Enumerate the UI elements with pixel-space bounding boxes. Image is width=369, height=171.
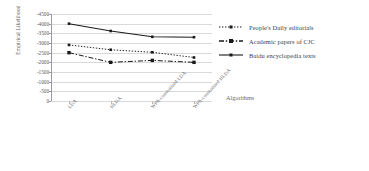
y-axis-tick-label: -500	[39, 88, 49, 94]
y-axis-tickmark	[49, 14, 51, 15]
y-axis-tickmark	[49, 53, 51, 54]
data-point-marker	[109, 30, 112, 33]
legend-item: Academic papers of CJC	[218, 34, 366, 48]
legend-key-swatch	[218, 50, 244, 60]
data-point-marker	[67, 51, 70, 54]
legend-item: People's Daily editorials	[218, 20, 366, 34]
y-axis-tickmark	[49, 33, 51, 34]
legend-label: People's Daily editorials	[249, 24, 314, 31]
data-point-marker	[68, 22, 71, 25]
series-lines	[51, 14, 212, 101]
data-point-marker	[68, 44, 71, 47]
data-point-marker	[151, 36, 154, 39]
y-axis-tick-label: -1500	[37, 69, 49, 75]
y-axis-tick-label: -2500	[37, 50, 49, 56]
data-point-marker	[151, 59, 154, 62]
x-axis-title: Algorithms	[226, 94, 254, 101]
legend-key-swatch	[218, 22, 244, 32]
data-point-marker	[193, 56, 196, 59]
y-axis-tickmark	[49, 62, 51, 63]
legend-item: Baidu encyclopedia texts	[218, 48, 366, 62]
y-axis-tick-label: -4500	[37, 11, 49, 17]
data-point-marker	[192, 61, 195, 64]
y-axis-tickmark	[49, 24, 51, 25]
series-line	[69, 24, 194, 38]
data-point-marker	[193, 36, 196, 39]
y-axis-tickmark	[49, 91, 51, 92]
y-axis-tick-label: -3500	[37, 30, 49, 36]
y-axis-tick-label: -4000	[37, 21, 49, 27]
chart-legend: People's Daily editorialsAcademic papers…	[218, 20, 366, 62]
data-point-marker	[151, 51, 154, 54]
y-axis-tick-labels: -4500-4000-3500-3000-2500-2000-1500-1000…	[26, 8, 49, 108]
data-point-marker	[109, 48, 112, 51]
y-axis-tickmark	[49, 72, 51, 73]
y-axis-tickmark	[49, 82, 51, 83]
plot-area	[51, 14, 212, 101]
empirical-likelihood-line-chart: Empirical Likelihood -4500-4000-3500-300…	[0, 0, 369, 171]
y-axis-tick-label: -1000	[37, 79, 49, 85]
legend-label: Academic papers of CJC	[249, 38, 315, 45]
y-axis-tick-label: -2000	[37, 59, 49, 65]
y-axis-tickmark	[49, 43, 51, 44]
legend-key-swatch	[218, 36, 244, 46]
series-line	[69, 45, 194, 58]
data-point-marker	[109, 61, 112, 64]
series-line	[69, 53, 194, 63]
legend-label: Baidu encyclopedia texts	[249, 52, 316, 59]
y-axis-tick-label: -3000	[37, 40, 49, 46]
y-axis-title: Empirical Likelihood	[11, 0, 25, 76]
